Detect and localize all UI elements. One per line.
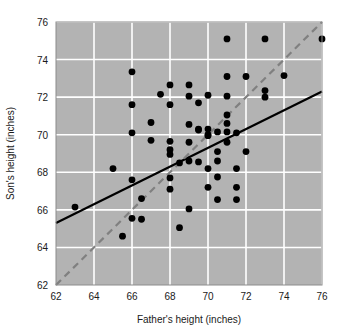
- y-tick-label: 72: [37, 92, 49, 103]
- data-point: [176, 224, 183, 231]
- x-tick-label: 76: [316, 291, 328, 302]
- data-point: [176, 159, 183, 166]
- data-point: [233, 184, 240, 191]
- data-point: [129, 176, 136, 183]
- x-axis-tick-labels: 6264666870727476: [50, 291, 328, 302]
- data-point: [110, 165, 117, 172]
- data-point: [167, 151, 174, 158]
- data-point: [224, 93, 231, 100]
- data-point: [119, 233, 126, 240]
- data-point: [214, 128, 221, 135]
- data-point: [205, 165, 212, 172]
- x-tick-label: 64: [88, 291, 100, 302]
- data-point: [195, 99, 202, 106]
- y-axis-tick-labels: 6264666870727476: [37, 17, 49, 291]
- data-point: [138, 216, 145, 223]
- data-point: [129, 101, 136, 108]
- data-point: [224, 128, 231, 135]
- data-point: [262, 87, 269, 94]
- data-point: [214, 196, 221, 203]
- data-point: [205, 184, 212, 191]
- data-point: [129, 68, 136, 75]
- data-point: [205, 132, 212, 139]
- y-tick-label: 62: [37, 280, 49, 291]
- data-point: [233, 196, 240, 203]
- data-point: [138, 195, 145, 202]
- data-point: [233, 165, 240, 172]
- y-tick-label: 64: [37, 242, 49, 253]
- y-tick-label: 68: [37, 167, 49, 178]
- data-point: [233, 129, 240, 136]
- x-tick-label: 68: [164, 291, 176, 302]
- data-point: [186, 206, 193, 213]
- data-point: [148, 137, 155, 144]
- data-point: [214, 158, 221, 165]
- data-point: [157, 91, 164, 98]
- data-point: [214, 148, 221, 155]
- data-point: [186, 93, 193, 100]
- data-point: [243, 73, 250, 80]
- data-point: [129, 129, 136, 136]
- y-tick-label: 70: [37, 130, 49, 141]
- data-point: [205, 92, 212, 99]
- y-axis-title: Son's height (inches): [5, 107, 16, 200]
- data-point: [186, 121, 193, 128]
- data-point: [167, 186, 174, 193]
- data-point: [129, 215, 136, 222]
- data-point: [186, 139, 193, 146]
- data-point: [167, 175, 174, 182]
- data-point: [167, 101, 174, 108]
- x-tick-label: 66: [126, 291, 138, 302]
- y-tick-label: 74: [37, 55, 49, 66]
- data-point: [214, 174, 221, 181]
- data-point: [148, 119, 155, 126]
- data-point: [195, 127, 202, 134]
- data-point: [167, 82, 174, 89]
- data-point: [224, 73, 231, 80]
- data-point: [224, 120, 231, 127]
- data-point: [281, 72, 288, 79]
- data-point: [195, 159, 202, 166]
- x-tick-label: 62: [50, 291, 62, 302]
- data-point: [167, 138, 174, 145]
- x-axis-title: Father's height (inches): [137, 314, 241, 325]
- data-point: [243, 148, 250, 155]
- x-tick-label: 70: [202, 291, 214, 302]
- data-point: [224, 112, 231, 119]
- data-point: [262, 36, 269, 43]
- data-point: [262, 94, 269, 101]
- data-point: [186, 158, 193, 165]
- data-point: [186, 82, 193, 89]
- y-tick-label: 66: [37, 205, 49, 216]
- data-point: [224, 139, 231, 146]
- data-point: [72, 204, 79, 211]
- data-point: [224, 36, 231, 43]
- chart-canvas: 62646668707274766264666870727476Father's…: [0, 0, 339, 334]
- scatter-plot-figure: 62646668707274766264666870727476Father's…: [0, 0, 339, 334]
- y-tick-label: 76: [37, 17, 49, 28]
- x-tick-label: 74: [278, 291, 290, 302]
- x-tick-label: 72: [240, 291, 252, 302]
